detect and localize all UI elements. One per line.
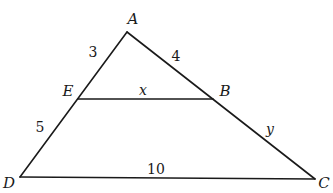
side-ac xyxy=(127,32,315,179)
vertex-label-b: B xyxy=(218,82,230,100)
measure-ab: 4 xyxy=(172,48,181,64)
triangle-diagram: A B C D E 3 4 5 x y 10 xyxy=(0,0,333,193)
measure-eb: x xyxy=(139,82,147,98)
vertex-label-d: D xyxy=(2,174,15,192)
measure-bc: y xyxy=(265,121,275,137)
measure-ae: 3 xyxy=(89,44,98,60)
measure-ed: 5 xyxy=(36,119,45,135)
side-dc xyxy=(20,177,315,179)
side-ad xyxy=(20,32,127,177)
measure-dc: 10 xyxy=(147,161,165,177)
vertex-label-e: E xyxy=(62,82,74,100)
vertex-label-c: C xyxy=(318,174,330,192)
vertex-label-a: A xyxy=(126,10,139,28)
